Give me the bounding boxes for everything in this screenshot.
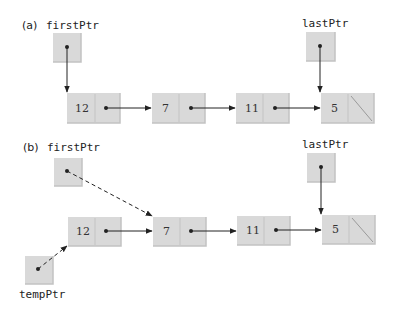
node-value: 7 xyxy=(163,225,170,238)
node-b-5: 5 xyxy=(322,215,375,244)
part-a: (a) firstPtr lastPtr 12 7 xyxy=(22,17,374,123)
node-value: 5 xyxy=(332,223,339,236)
temp-ptr-box xyxy=(25,256,53,284)
node-a-5: 5 xyxy=(321,93,374,123)
dashed-arrow-first-ptr-to-7 xyxy=(67,171,152,216)
node-value: 12 xyxy=(76,225,90,238)
part-a-label: (a) xyxy=(22,19,37,32)
linked-list-diagram: (a) firstPtr lastPtr 12 7 xyxy=(0,0,395,314)
first-ptr-b-label: firstPtr xyxy=(47,141,100,154)
first-ptr-a-label: firstPtr xyxy=(46,19,99,32)
node-value: 11 xyxy=(246,224,260,237)
last-ptr-a-label: lastPtr xyxy=(302,17,349,30)
part-b: (b) firstPtr lastPtr tempPtr 12 xyxy=(19,138,375,301)
node-value: 7 xyxy=(162,102,169,115)
node-value: 5 xyxy=(331,102,338,115)
temp-ptr-label: tempPtr xyxy=(19,288,66,301)
node-value: 12 xyxy=(75,102,89,115)
node-value: 11 xyxy=(245,102,259,115)
last-ptr-b-label: lastPtr xyxy=(302,138,349,151)
part-b-label: (b) xyxy=(23,141,39,154)
